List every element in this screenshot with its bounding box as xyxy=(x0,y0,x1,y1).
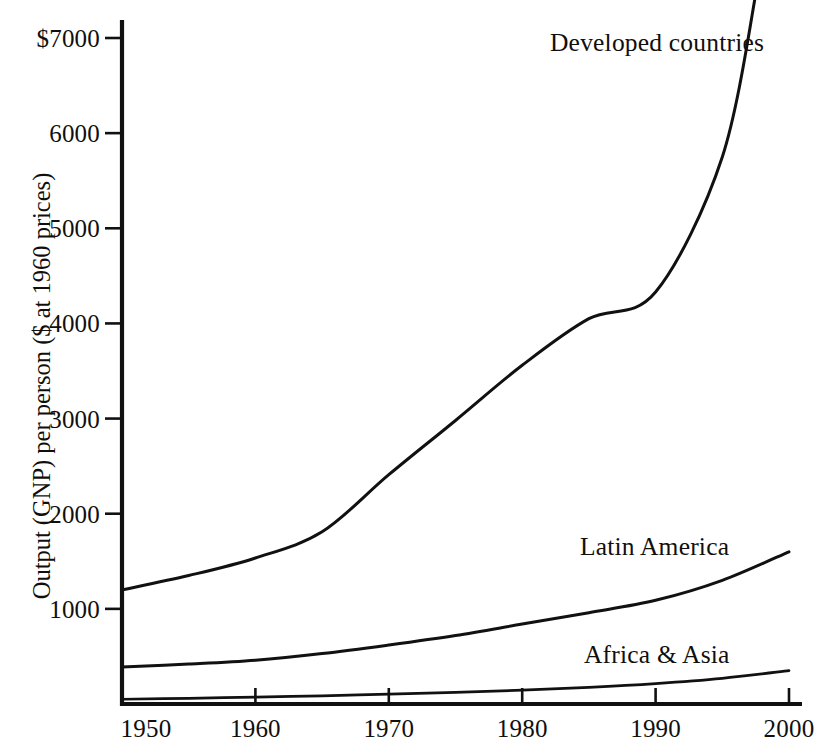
series-label-developed-countries: Developed countries xyxy=(550,28,764,58)
x-tick-label: 1950 xyxy=(121,716,172,741)
series-path-africa-asia xyxy=(122,671,789,700)
series-label-latin-america: Latin America xyxy=(580,532,729,562)
x-tick-label: 1970 xyxy=(363,716,414,741)
x-tick-label: 1980 xyxy=(497,716,548,741)
series-group xyxy=(122,0,789,699)
y-axis-title: Output (GNP) per person ($ at 1960 price… xyxy=(28,96,56,676)
y-tick-label: $7000 xyxy=(0,26,100,51)
y-axis-ticks xyxy=(105,38,122,609)
series-path-developed-countries xyxy=(122,0,758,590)
series-label-africa-asia: Africa & Asia xyxy=(584,640,730,670)
x-tick-label: 1990 xyxy=(630,716,681,741)
x-tick-label: 1960 xyxy=(230,716,281,741)
axes-group xyxy=(120,20,802,706)
x-tick-label: 2000 xyxy=(764,716,814,741)
